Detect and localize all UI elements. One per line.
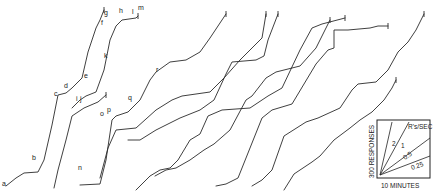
record-3 (54, 95, 106, 188)
record-4 (80, 14, 226, 185)
record-11 (284, 80, 396, 190)
marker-label-j: j (79, 95, 82, 103)
marker-label-m: m (138, 4, 144, 11)
legend-title: R's/SEC (408, 123, 433, 130)
slope-legend-inset: R's/SEC 2 1 0.5 0.25 10 MINUTES 300 RESP… (368, 120, 433, 189)
marker-label-c: c (54, 90, 58, 97)
marker-label-r: r (156, 66, 159, 73)
event-marker-labels: abcdefghijklmnopqr (2, 4, 159, 187)
marker-label-n: n (78, 164, 82, 171)
record-6 (128, 14, 278, 140)
legend-y-label: 300 RESPONSES (368, 124, 375, 178)
slope-1-line (380, 122, 409, 175)
marker-label-d: d (64, 82, 68, 89)
marker-label-b: b (32, 154, 36, 161)
slope-label-2: 2 (392, 140, 396, 147)
slope-label-1: 1 (401, 142, 405, 149)
marker-label-o: o (100, 110, 104, 117)
record-9 (216, 26, 388, 186)
record-1 (6, 10, 104, 186)
marker-label-h: h (119, 7, 123, 14)
marker-label-i: i (76, 95, 78, 102)
cumulative-record-figure: abcdefghijklmnopqr R's/SEC 2 1 0.5 0.25 … (0, 0, 434, 193)
marker-label-e: e (84, 72, 88, 79)
cumulative-record-curves (6, 7, 424, 190)
marker-label-p: p (107, 106, 111, 114)
marker-label-f: f (101, 19, 103, 26)
record-7 (136, 18, 345, 190)
marker-label-g: g (104, 9, 108, 17)
record-5 (100, 14, 266, 178)
marker-label-k: k (104, 52, 108, 59)
marker-label-l: l (132, 8, 134, 15)
slope-label-0.25: 0.25 (410, 160, 425, 171)
marker-label-a: a (2, 180, 6, 187)
legend-x-label: 10 MINUTES (381, 182, 420, 189)
record-10 (252, 14, 424, 186)
marker-label-q: q (128, 94, 132, 102)
